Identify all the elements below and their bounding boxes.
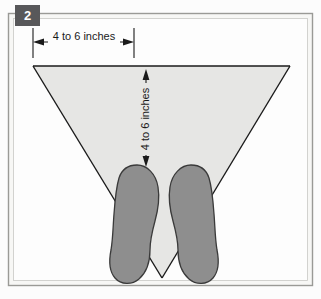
step-badge-label: 2 [24, 8, 31, 23]
stance-diagram: 4 to 6 inches 4 to 6 inches 2 [0, 0, 321, 299]
horizontal-dimension-label: 4 to 6 inches [53, 30, 116, 42]
figure-panel: 4 to 6 inches 4 to 6 inches 2 [0, 0, 321, 299]
vertical-dimension-label: 4 to 6 inches [139, 87, 151, 150]
